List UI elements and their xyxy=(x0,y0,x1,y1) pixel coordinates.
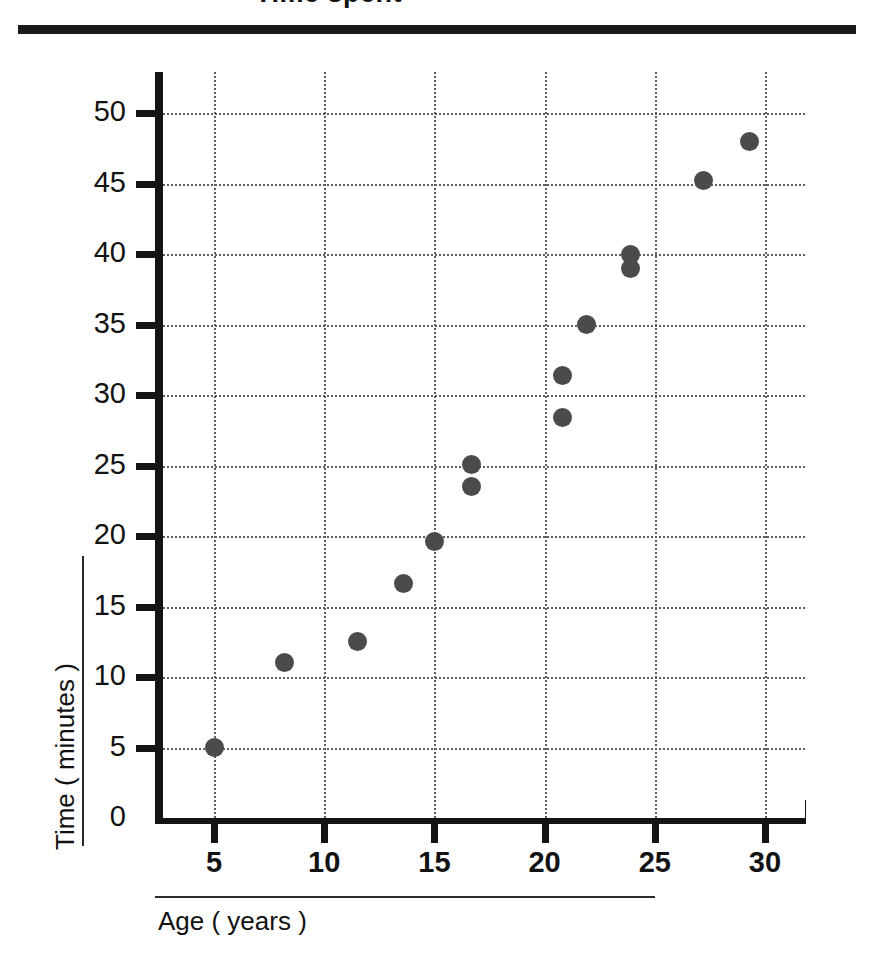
data-point xyxy=(553,408,572,427)
y-axis-tick xyxy=(136,674,156,681)
gridline-horizontal xyxy=(163,113,805,115)
x-axis-tick-label: 5 xyxy=(184,848,244,877)
gridline-vertical xyxy=(655,72,657,818)
y-axis-tick-label: 50 xyxy=(70,97,126,126)
gridline-horizontal xyxy=(163,395,805,397)
gridline-vertical xyxy=(545,72,547,818)
data-point xyxy=(275,653,294,672)
gridline-horizontal xyxy=(163,677,805,679)
data-point xyxy=(205,738,224,757)
x-axis-title: Age ( years ) xyxy=(158,906,307,937)
y-axis-tick-label: 40 xyxy=(70,238,126,267)
data-point xyxy=(348,632,367,651)
y-axis-tick xyxy=(136,181,156,188)
x-axis-tick-label: 10 xyxy=(294,848,354,877)
data-point xyxy=(425,532,444,551)
data-point xyxy=(694,171,713,190)
y-axis-tick xyxy=(136,392,156,399)
x-axis-tick xyxy=(211,822,218,843)
y-axis-tick xyxy=(136,110,156,117)
y-axis-tick xyxy=(136,533,156,540)
gridline-vertical xyxy=(324,72,326,818)
data-point xyxy=(394,574,413,593)
y-axis-tick xyxy=(136,463,156,470)
gridline-horizontal xyxy=(163,607,805,609)
x-axis-tick xyxy=(431,822,438,843)
y-axis-tick-label: 30 xyxy=(70,379,126,408)
y-axis-tick-label: 25 xyxy=(70,450,126,479)
x-axis-tick-label: 30 xyxy=(735,848,795,877)
y-axis-title: Time ( minutes ) xyxy=(50,550,81,850)
y-axis-tick-label: 20 xyxy=(70,520,126,549)
y-axis-tick xyxy=(136,251,156,258)
gridline-horizontal xyxy=(163,748,805,750)
y-axis-tick-label: 35 xyxy=(70,309,126,338)
x-axis-tick xyxy=(542,822,549,843)
y-axis-tick xyxy=(136,322,156,329)
x-axis-tick-label: 15 xyxy=(404,848,464,877)
x-axis-tick-label: 25 xyxy=(625,848,685,877)
data-point xyxy=(553,366,572,385)
x-axis-tick xyxy=(762,822,769,843)
cropped-title-region: Time spent xyxy=(0,0,874,12)
header-divider xyxy=(18,25,856,34)
gridline-horizontal xyxy=(163,466,805,468)
x-axis-title-rule xyxy=(155,896,655,898)
y-axis-tick xyxy=(136,604,156,611)
y-axis-tick-label: 45 xyxy=(70,168,126,197)
data-point xyxy=(577,315,596,334)
data-point xyxy=(621,259,640,278)
gridline-horizontal xyxy=(163,254,805,256)
gridline-horizontal xyxy=(163,536,805,538)
x-axis-tick-label: 20 xyxy=(515,848,575,877)
data-point xyxy=(462,455,481,474)
x-axis-tick xyxy=(321,822,328,843)
gridline-vertical xyxy=(765,72,767,818)
chart-title: Time spent xyxy=(255,0,402,9)
x-axis-tick xyxy=(652,822,659,843)
data-point xyxy=(740,132,759,151)
data-point xyxy=(462,477,481,496)
y-axis-tick xyxy=(136,745,156,752)
gridline-vertical xyxy=(214,72,216,818)
y-axis-title-rule xyxy=(82,556,84,846)
gridline-vertical xyxy=(434,72,436,818)
gridline-horizontal xyxy=(163,325,805,327)
scatter-plot-area xyxy=(163,72,805,818)
